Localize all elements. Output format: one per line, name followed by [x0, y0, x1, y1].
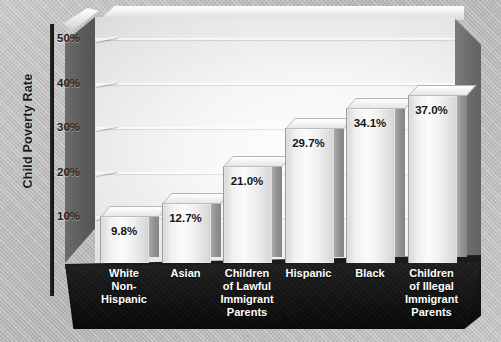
bar-value-label-5: 34.1%	[346, 117, 394, 129]
category-label-line: Parents	[217, 306, 277, 319]
bar-side-face-1	[148, 211, 159, 257]
category-label-line: Immigrant	[402, 293, 462, 306]
category-label-line: Black	[340, 267, 400, 280]
y-tick-label-30: 30%	[57, 121, 97, 133]
bar-2: 12.7%	[162, 192, 222, 263]
bar-value-label-1: 9.8%	[100, 225, 148, 237]
bar-3: 21.0%	[223, 155, 283, 263]
bar-side-face-6	[456, 90, 467, 257]
category-label-line: Parents	[402, 306, 462, 319]
y-tick-label-10: 10%	[57, 210, 97, 222]
bar-front-face-6	[408, 95, 457, 263]
category-label-line: Children	[217, 267, 277, 280]
category-label-4: Hispanic	[279, 267, 339, 280]
category-label-line: Non-	[94, 280, 154, 293]
category-label-5: Black	[340, 267, 400, 280]
y-tick-label-20: 20%	[57, 166, 97, 178]
bar-front-face-5	[346, 108, 395, 263]
bar-value-label-2: 12.7%	[162, 212, 210, 224]
category-label-line: Hispanic	[279, 267, 339, 280]
category-label-6: Childrenof IllegalImmigrantParents	[402, 267, 462, 319]
category-label-2: Asian	[156, 267, 216, 280]
y-tick-label-40: 40%	[57, 77, 97, 89]
gridline-40	[95, 83, 455, 85]
y-tick-label-50: 50%	[57, 32, 97, 44]
bar-side-face-2	[210, 198, 221, 257]
bar-front-face-1	[100, 216, 149, 263]
bar-4: 29.7%	[285, 117, 345, 263]
bar-value-label-4: 29.7%	[285, 137, 333, 149]
category-label-line: of Lawful	[217, 280, 277, 293]
category-label-1: WhiteNon-Hispanic	[94, 267, 154, 306]
bar-side-face-5	[394, 103, 405, 257]
category-label-line: Children	[402, 267, 462, 280]
y-axis-line	[50, 24, 54, 296]
bar-chart: 10%20%30%40%50% Child Poverty Rate 9.8%1…	[0, 0, 501, 342]
bar-5: 34.1%	[346, 97, 406, 263]
category-label-3: Childrenof LawfulImmigrantParents	[217, 267, 277, 319]
y-axis-title: Child Poverty Rate	[21, 51, 35, 211]
category-label-line: Hispanic	[94, 293, 154, 306]
category-label-line: White	[94, 267, 154, 280]
plot-left-wall	[65, 17, 95, 263]
category-label-line: Immigrant	[217, 293, 277, 306]
bar-side-face-4	[333, 123, 344, 257]
bar-value-label-3: 21.0%	[223, 175, 271, 187]
gridline-50	[95, 38, 455, 40]
bar-side-face-3	[271, 161, 282, 257]
bar-value-label-6: 37.0%	[408, 104, 456, 116]
category-label-line: Asian	[156, 267, 216, 280]
bar-1: 9.8%	[100, 205, 160, 263]
category-label-line: of Illegal	[402, 280, 462, 293]
bar-6: 37.0%	[408, 84, 468, 263]
